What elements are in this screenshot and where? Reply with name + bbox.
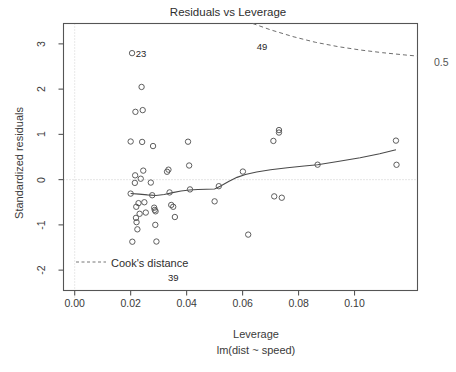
data-point — [129, 50, 134, 55]
data-point — [185, 139, 190, 144]
data-point — [139, 139, 144, 144]
data-point — [137, 211, 142, 216]
y-tick-label-4: 2 — [36, 86, 47, 92]
data-point — [128, 139, 133, 144]
data-point — [153, 222, 158, 227]
x-axis-title: Leverage — [233, 329, 279, 340]
y-tick-label-5: 3 — [36, 41, 47, 47]
x-tick-label-1: 0.02 — [120, 298, 140, 309]
data-point — [139, 84, 144, 89]
x-tick-label-2: 0.04 — [176, 298, 196, 309]
point-label-23: 23 — [136, 49, 147, 59]
data-point — [133, 109, 138, 114]
point-label-39: 39 — [168, 273, 179, 283]
data-point — [246, 232, 251, 237]
data-point — [142, 200, 147, 205]
y-axis-title: Standardized residuals — [14, 107, 25, 219]
page-title: Residuals vs Leverage — [170, 7, 286, 19]
data-point — [150, 143, 155, 148]
x-tick-label-3: 0.06 — [232, 298, 252, 309]
data-point — [279, 195, 284, 200]
residuals-vs-leverage-plot: Residuals vs Leverage Leverage lm(dist ~… — [0, 0, 456, 372]
y-tick-label-1: -1 — [36, 220, 47, 229]
data-point — [272, 194, 277, 199]
data-point — [154, 239, 159, 244]
y-tick-label-0: -2 — [36, 265, 47, 274]
data-point — [141, 168, 146, 173]
data-point — [143, 210, 148, 215]
plot-canvas — [0, 0, 456, 372]
data-point — [138, 176, 143, 181]
point-label-49: 49 — [257, 42, 268, 52]
x-tick-label-0: 0.00 — [64, 298, 84, 309]
data-point — [132, 173, 137, 178]
cooks-distance-contour-0.5 — [253, 24, 418, 57]
cooks-contour-label-0.5: 0.5 — [434, 57, 449, 68]
data-point — [240, 169, 245, 174]
x-tick-label-4: 0.08 — [288, 298, 308, 309]
x-axis-subtitle: lm(dist ~ speed) — [217, 345, 296, 356]
y-tick-label-2: 0 — [36, 177, 47, 183]
data-point — [130, 239, 135, 244]
data-point — [393, 138, 398, 143]
data-point — [172, 214, 177, 219]
data-point — [212, 199, 217, 204]
data-point — [140, 107, 145, 112]
data-point — [148, 180, 153, 185]
data-point — [394, 162, 399, 167]
data-point — [186, 163, 191, 168]
data-point — [135, 227, 140, 232]
loess-smoother-line — [131, 150, 396, 196]
data-point — [132, 180, 137, 185]
x-tick-label-5: 0.10 — [344, 298, 364, 309]
data-point — [271, 138, 276, 143]
y-tick-label-3: 1 — [36, 131, 47, 137]
cooks-distance-legend-label: Cook's distance — [111, 258, 188, 269]
